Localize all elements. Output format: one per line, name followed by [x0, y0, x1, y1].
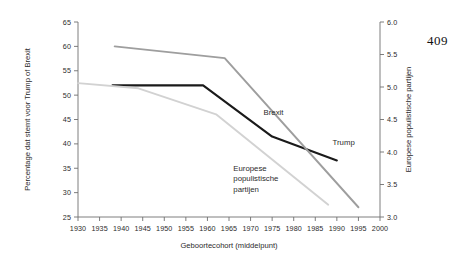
line-chart: 253035404550556065 Percentage dat stemt …	[0, 0, 476, 265]
chart-figure: 409 253035404550556065 Percentage dat st…	[0, 0, 476, 265]
x-axis-tick-label: 2000	[372, 224, 388, 233]
y-axis-right-title: Europese populistische partijen	[404, 67, 413, 173]
y-axis-left-tick-label: 35	[63, 164, 71, 173]
x-axis: 1930193519401945195019551960196519701975…	[70, 217, 388, 250]
y-axis-left-tick-label: 30	[63, 188, 71, 197]
x-axis-title: Geboortecohort (middelpunt)	[180, 241, 278, 250]
y-axis-right-tick-label: 3.0	[387, 213, 397, 222]
x-axis-tick-label: 1980	[286, 224, 302, 233]
y-axis-left-tick-label: 40	[63, 139, 71, 148]
x-axis-tick-label: 1965	[221, 224, 237, 233]
x-axis-tick-label: 1935	[91, 224, 107, 233]
x-axis-tick-label: 1945	[135, 224, 151, 233]
y-axis-left-tick-label: 25	[63, 213, 71, 222]
x-axis-tick-label: 1950	[156, 224, 172, 233]
y-axis-left-ticks: 253035404550556065	[63, 18, 78, 222]
y-axis-right: 3.03.54.04.55.05.56.0 Europese populisti…	[380, 18, 413, 222]
y-axis-left-title: Percentage dat stemt voor Trump of Brexi…	[23, 47, 32, 191]
y-axis-left-tick-label: 50	[63, 91, 71, 100]
y-axis-right-tick-label: 6.0	[387, 18, 397, 27]
y-axis-right-tick-label: 4.5	[387, 115, 397, 124]
series-label-trump: Trump	[333, 138, 356, 147]
page-number: 409	[427, 33, 448, 49]
x-axis-tick-label: 1970	[242, 224, 258, 233]
x-axis-tick-label: 1940	[113, 224, 129, 233]
x-axis-tick-label: 1955	[178, 224, 194, 233]
y-axis-right-tick-label: 5.0	[387, 83, 397, 92]
y-axis-right-tick-label: 3.5	[387, 180, 397, 189]
y-axis-right-ticks: 3.03.54.04.55.05.56.0	[380, 18, 397, 222]
series-label-brexit: Brexit	[264, 108, 285, 117]
y-axis-left-tick-label: 45	[63, 115, 71, 124]
x-axis-ticks: 1930193519401945195019551960196519701975…	[70, 217, 388, 233]
y-axis-left-tick-label: 60	[63, 42, 71, 51]
x-axis-tick-label: 1975	[264, 224, 280, 233]
y-axis-right-tick-label: 4.0	[387, 148, 397, 157]
x-axis-tick-label: 1995	[350, 224, 366, 233]
series-lines	[78, 46, 358, 207]
series-line-trump	[113, 85, 337, 160]
y-axis-left-tick-label: 65	[63, 18, 71, 27]
x-axis-tick-label: 1985	[307, 224, 323, 233]
x-axis-tick-label: 1930	[70, 224, 86, 233]
x-axis-tick-label: 1960	[199, 224, 215, 233]
series-label-europese: Europesepopulistischepartijen	[233, 164, 278, 194]
y-axis-left-tick-label: 55	[63, 66, 71, 75]
y-axis-right-tick-label: 5.5	[387, 50, 397, 59]
y-axis-left: 253035404550556065 Percentage dat stemt …	[23, 18, 78, 222]
x-axis-tick-label: 1990	[329, 224, 345, 233]
